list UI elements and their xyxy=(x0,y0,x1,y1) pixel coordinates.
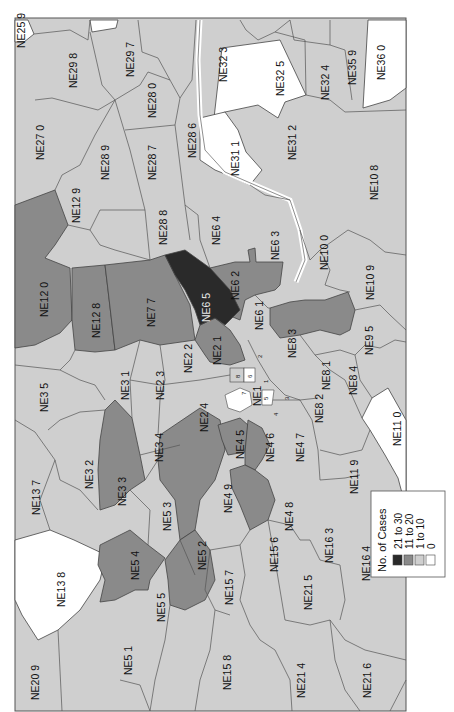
label-ne8-2: NE8 2 xyxy=(313,394,325,423)
label-ne16-3: NE16 3 xyxy=(323,528,335,563)
legend-swatch-21-30 xyxy=(393,555,402,565)
label-ne4-8: NE4 8 xyxy=(283,502,295,531)
label-ne3-4: NE3 4 xyxy=(153,433,165,462)
legend-label-11-20: 11 to 20 xyxy=(404,513,415,549)
label-ne2-3: NE2 3 xyxy=(154,371,166,400)
label-ne7-7: NE7 7 xyxy=(145,298,157,327)
label-ne8-3: NE8 3 xyxy=(286,329,298,358)
label-ne3-5: NE3 5 xyxy=(38,383,50,412)
legend-swatch-1-10 xyxy=(415,555,424,565)
label-ne1: NE1 xyxy=(251,385,263,406)
label-ne11-0: NE11 0 xyxy=(391,412,403,446)
label-ne32-4: NE32 4 xyxy=(319,65,331,100)
legend-title: No. of Cases xyxy=(376,508,388,572)
label-ne28-6: NE28 6 xyxy=(186,123,198,158)
label-ne28-8: NE28 8 xyxy=(157,210,169,245)
label-ne9-5: NE9 5 xyxy=(363,326,375,355)
label-ne15-7: NE15 7 xyxy=(223,570,235,605)
label-ne5-5: NE5 5 xyxy=(155,593,167,622)
label-ne29-8: NE29 8 xyxy=(67,53,79,88)
label-ne36-0: NE36 0 xyxy=(375,45,387,80)
label-ne28-7: NE28 7 xyxy=(146,145,158,180)
label-ne15-6: NE15 6 xyxy=(268,537,280,572)
label-ne27-0: NE27 0 xyxy=(34,125,46,160)
label-ne4-7: NE4 7 xyxy=(294,433,306,462)
label-ne6-1: NE6 1 xyxy=(253,301,265,330)
label-ne5-3: NE5 3 xyxy=(161,502,173,531)
label-ne3-1: NE3 1 xyxy=(119,371,131,400)
label-ne25-9: NE25 9 xyxy=(15,13,27,48)
legend-label-0: 0 xyxy=(426,543,437,549)
label-ne32-3: NE32 3 xyxy=(217,47,229,82)
label-ne6-3: NE6 3 xyxy=(269,231,281,260)
label-ne8-1: NE8 1 xyxy=(320,361,332,390)
label-ne6-4: NE6 4 xyxy=(210,216,222,245)
label-ne6-5: NE6 5 xyxy=(200,293,212,322)
label-ne4-6: NE4 6 xyxy=(264,433,276,462)
legend-swatch-11-20 xyxy=(404,555,413,565)
label-ne2-1: NE2 1 xyxy=(211,336,223,365)
district-ne12-0 xyxy=(15,190,72,348)
label-ne28-9: NE28 9 xyxy=(99,145,111,180)
legend-label-1-10: 1 to 10 xyxy=(415,518,426,549)
label-ne21-6: NE21 6 xyxy=(361,663,373,698)
legend-swatch-0 xyxy=(426,555,435,565)
label-ne35-9: NE35 9 xyxy=(346,50,358,85)
label-ne13-8: NE13 8 xyxy=(55,572,67,607)
label-ne3-2: NE3 2 xyxy=(83,460,95,489)
label-ne15-8: NE15 8 xyxy=(221,655,233,690)
legend-label-21-30: 21 to 30 xyxy=(393,512,404,549)
label-ne12-8: NE12 8 xyxy=(90,303,102,338)
label-ne12-0: NE12 0 xyxy=(38,282,50,317)
label-ne31-2: NE31 2 xyxy=(286,125,298,160)
label-ne29-7: NE29 7 xyxy=(124,42,136,77)
label-ne13-7: NE13 7 xyxy=(30,480,42,515)
label-ne5-1: NE5 1 xyxy=(122,646,134,675)
label-ne6-2: NE6 2 xyxy=(229,271,241,300)
label-ne2-4: NE2 4 xyxy=(198,403,210,432)
choropleth-map: NE25 9 NE29 8 NE29 7 NE28 0 NE32 3 NE32 … xyxy=(0,0,454,712)
label-ne2-2: NE2 2 xyxy=(182,344,194,373)
label-ne11-9: NE11 9 xyxy=(348,460,360,494)
label-ne5-4: NE5 4 xyxy=(129,551,141,580)
label-ne12-9: NE12 9 xyxy=(70,188,82,223)
label-ne10-8: NE10 8 xyxy=(368,165,380,200)
label-ne8-4: NE8 4 xyxy=(347,366,359,395)
label-ne3-3: NE3 3 xyxy=(116,477,128,506)
label-ne4-5: NE4 5 xyxy=(234,430,246,459)
label-ne4-9: NE4 9 xyxy=(222,484,234,513)
label-ne16-4: NE16 4 xyxy=(360,546,372,581)
label-ne20-9: NE20 9 xyxy=(29,665,41,700)
label-ne32-5: NE32 5 xyxy=(274,61,286,96)
label-ne5-2: NE5 2 xyxy=(196,541,208,570)
legend: No. of Cases 21 to 30 11 to 20 1 to 10 0 xyxy=(371,491,445,577)
label-ne21-4: NE21 4 xyxy=(295,663,307,698)
label-ne10-0: NE10 0 xyxy=(318,235,330,270)
label-ne28-0: NE28 0 xyxy=(146,83,158,118)
label-ne31-1: NE31 1 xyxy=(229,141,241,176)
label-ne10-9: NE10 9 xyxy=(364,265,376,300)
label-ne21-5: NE21 5 xyxy=(302,575,314,610)
